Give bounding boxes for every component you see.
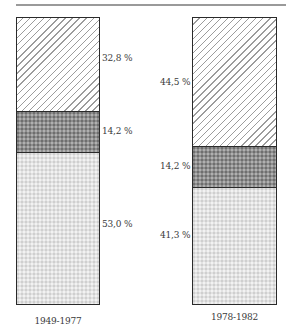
value-label-1949-top: 32,8 % — [102, 53, 132, 63]
segment-top-hatched — [17, 18, 99, 111]
category-label-1949-1977: 1949-1977 — [16, 316, 100, 326]
bar-1978-1982 — [192, 17, 277, 305]
segment-top-hatched — [193, 18, 276, 146]
value-label-1949-bottom: 53,0 % — [102, 219, 132, 229]
value-label-1978-bottom: 41,3 % — [160, 230, 190, 240]
segment-bottom-light — [17, 152, 99, 304]
category-label-1978-1982: 1978-1982 — [192, 312, 277, 322]
segment-middle-dark — [17, 111, 99, 152]
segment-bottom-light — [193, 187, 276, 304]
value-label-1978-top: 44,5 % — [160, 77, 190, 87]
top-rule — [16, 4, 286, 6]
segment-middle-dark — [193, 146, 276, 187]
value-label-1978-middle: 14,2 % — [160, 161, 190, 171]
bar-1949-1977 — [16, 17, 100, 305]
value-label-1949-middle: 14,2 % — [102, 126, 132, 136]
